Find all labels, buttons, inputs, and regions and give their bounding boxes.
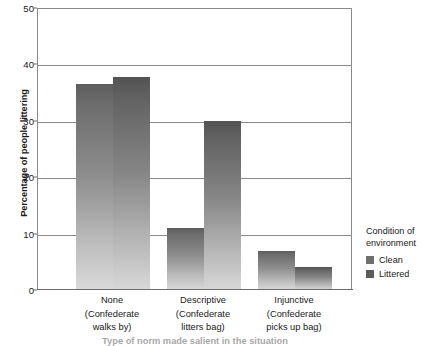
- bar-injunctive-clean: [258, 251, 295, 290]
- legend-title: Condition of environment: [366, 226, 427, 249]
- legend-swatch-littered-icon: [366, 270, 374, 278]
- bar-descriptive-littered: [204, 121, 241, 290]
- legend-label-clean: Clean: [379, 255, 403, 265]
- y-tick-label-30: 30: [4, 115, 34, 126]
- x-category-sub-line2: picks up bag): [239, 321, 349, 335]
- bar-injunctive-littered: [295, 267, 332, 290]
- y-tick-label-40: 40: [4, 59, 34, 70]
- plot-inner: [38, 9, 351, 290]
- y-tick-label-10: 10: [4, 228, 34, 239]
- bar-none-littered: [113, 77, 150, 290]
- legend: Condition of environment CleanLittered: [366, 226, 427, 283]
- legend-item-list: CleanLittered: [366, 255, 427, 279]
- legend-title-line2: environment: [366, 238, 416, 248]
- legend-item-clean[interactable]: Clean: [366, 255, 427, 265]
- legend-swatch-clean-icon: [366, 256, 374, 264]
- bar-descriptive-clean: [167, 228, 204, 290]
- x-category-main: Injunctive: [239, 294, 349, 308]
- legend-label-littered: Littered: [379, 269, 409, 279]
- bar-none-clean: [76, 84, 113, 290]
- x-category-injunctive: Injunctive(Confederatepicks up bag): [239, 294, 349, 335]
- gridline-40: [38, 65, 351, 66]
- x-axis-baseline: [37, 289, 353, 290]
- plot-area: [37, 8, 352, 290]
- legend-item-littered[interactable]: Littered: [366, 269, 427, 279]
- x-axis-caption: Type of norm made salient in the situati…: [37, 336, 353, 346]
- x-category-sub-line1: (Confederate: [239, 308, 349, 322]
- y-tick-label-50: 50: [4, 3, 34, 14]
- legend-title-line1: Condition of: [366, 226, 415, 236]
- y-tick-label-20: 20: [4, 172, 34, 183]
- y-tick-label-0: 0: [4, 285, 34, 296]
